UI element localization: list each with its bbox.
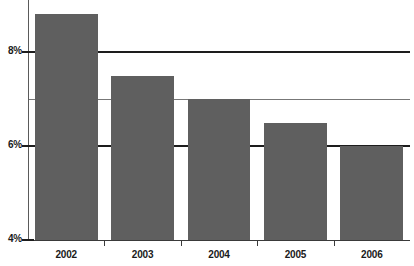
bar-2002[interactable] <box>35 14 98 240</box>
x-axis-label-2003: 2003 <box>104 249 180 260</box>
bar-chart: 8%6%4% 20022003200420052006 <box>0 0 414 266</box>
plot-area <box>28 0 410 240</box>
y-axis-line <box>28 0 29 241</box>
y-tick-label-8: 8% <box>8 45 22 56</box>
y-tick-label-6: 6% <box>8 139 22 150</box>
y-tick-mark-8 <box>22 51 34 53</box>
y-tick-label-4: 4% <box>8 233 22 244</box>
y-tick-mark-6 <box>22 145 34 147</box>
x-axis-label-2004: 2004 <box>181 249 257 260</box>
bar-2005[interactable] <box>264 123 327 241</box>
x-axis-label-2002: 2002 <box>28 249 104 260</box>
x-tick-mark-2004 <box>181 241 182 246</box>
x-tick-mark-2003 <box>104 241 105 246</box>
x-axis-label-2005: 2005 <box>257 249 333 260</box>
bar-2003[interactable] <box>111 76 174 241</box>
x-tick-mark-2006 <box>334 241 335 246</box>
bar-2006[interactable] <box>340 146 403 240</box>
y-tick-mark-4 <box>22 239 34 241</box>
x-tick-mark-2005 <box>257 241 258 246</box>
x-axis-label-2006: 2006 <box>334 249 410 260</box>
bar-2004[interactable] <box>188 99 251 240</box>
x-axis-line <box>28 240 410 241</box>
